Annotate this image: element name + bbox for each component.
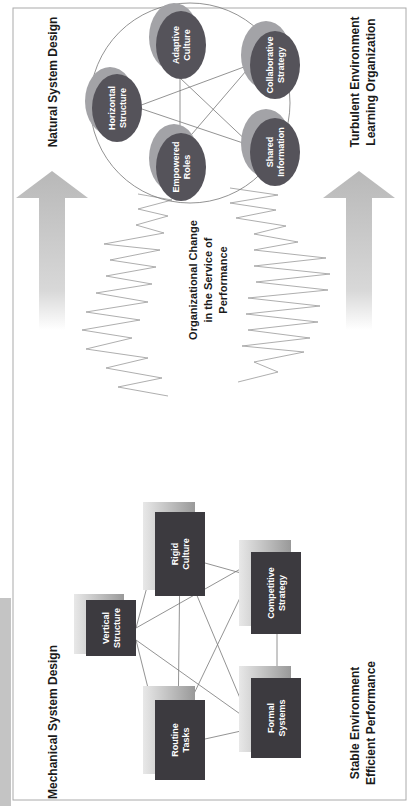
diagram-canvas: Organizational Change in the Service of … [0, 0, 412, 806]
node-formal-systems: Formal Systems [239, 666, 301, 758]
svg-text:Rigid: Rigid [170, 543, 180, 566]
svg-text:Tasks: Tasks [181, 728, 191, 753]
node-routine-tasks: Routine Tasks [143, 686, 205, 780]
svg-text:Culture: Culture [182, 29, 192, 61]
svg-text:Structure: Structure [118, 88, 128, 128]
svg-text:Learning Organization: Learning Organization [364, 18, 378, 145]
svg-text:Formal: Formal [266, 703, 276, 733]
svg-text:Adaptive: Adaptive [171, 26, 181, 64]
svg-text:Performance: Performance [217, 246, 229, 313]
svg-text:Turbulent Environment: Turbulent Environment [348, 16, 362, 147]
svg-text:Efficient Performance: Efficient Performance [364, 661, 378, 785]
svg-text:Organizational Change: Organizational Change [187, 220, 199, 340]
svg-text:Structure: Structure [112, 608, 122, 648]
natural-title: Natural System Design [46, 17, 60, 148]
svg-text:Strategy: Strategy [277, 575, 287, 611]
svg-text:Information: Information [276, 127, 286, 177]
svg-text:Systems: Systems [277, 699, 287, 736]
svg-text:Culture: Culture [181, 538, 191, 570]
svg-text:Routine: Routine [170, 723, 180, 757]
svg-text:Roles: Roles [182, 155, 192, 180]
svg-text:Empowered: Empowered [171, 141, 181, 192]
side-tab [0, 598, 11, 806]
svg-text:Shared: Shared [265, 137, 275, 168]
node-rigid-culture: Rigid Culture [143, 502, 205, 596]
svg-text:Collaborative: Collaborative [265, 36, 275, 93]
svg-text:Vertical: Vertical [101, 612, 111, 644]
node-vertical-structure: Vertical Structure [74, 594, 136, 656]
svg-text:Strategy: Strategy [276, 47, 286, 83]
svg-text:Horizontal: Horizontal [107, 86, 117, 130]
svg-text:Competitive: Competitive [266, 567, 276, 619]
svg-text:Stable Environment: Stable Environment [348, 667, 362, 780]
node-competitive-strategy: Competitive Strategy [239, 540, 301, 634]
svg-text:in the Service of: in the Service of [202, 237, 214, 322]
mechanical-title: Mechanical System Design [46, 645, 60, 799]
